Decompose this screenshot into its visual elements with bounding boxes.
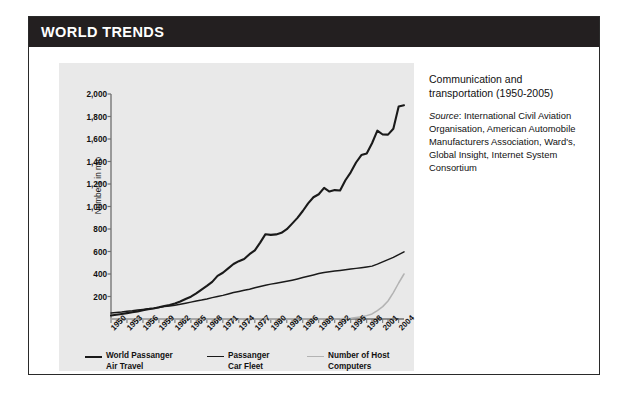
x-axis-tick-labels: 1950195319561959196219651968197119741977… xyxy=(59,63,414,371)
x-tick-label: 1968 xyxy=(205,313,224,332)
caption-source: Source: International Civil Aviation Org… xyxy=(429,109,589,174)
legend-label: World Passanger Air Travel xyxy=(106,351,173,372)
x-tick-label: 1965 xyxy=(189,313,208,332)
x-tick-label: 1959 xyxy=(157,313,176,332)
x-tick-label: 1995 xyxy=(349,313,368,332)
plot-area: Numbers in mio 2004006008001,0001,2001,4… xyxy=(59,63,414,371)
caption-block: Communication and transportation (1950-2… xyxy=(429,73,589,174)
x-tick-label: 1956 xyxy=(141,313,160,332)
x-tick-label: 1992 xyxy=(333,313,352,332)
source-label: Source xyxy=(429,110,459,121)
x-tick-label: 1974 xyxy=(237,313,256,332)
legend-swatch xyxy=(307,353,324,362)
chart-legend: World Passanger Air TravelPassanger Car … xyxy=(85,351,415,381)
legend-item[interactable]: Passanger Car Fleet xyxy=(207,351,269,372)
chart-panel: Numbers in mio 2004006008001,0001,2001,4… xyxy=(59,63,414,371)
x-tick-label: 2001 xyxy=(381,313,400,332)
x-tick-label: 1986 xyxy=(301,313,320,332)
legend-label: Number of Host Computers xyxy=(328,351,389,372)
x-tick-label: 1953 xyxy=(125,313,144,332)
x-tick-label: 1950 xyxy=(109,313,128,332)
x-tick-label: 1977 xyxy=(253,313,272,332)
legend-item[interactable]: World Passanger Air Travel xyxy=(85,351,173,372)
x-tick-label: 1989 xyxy=(317,313,336,332)
page-title: WORLD TRENDS xyxy=(41,24,164,40)
x-tick-label: 1971 xyxy=(221,313,240,332)
legend-swatch xyxy=(85,353,102,362)
x-tick-label: 1983 xyxy=(285,313,304,332)
x-tick-label: 1980 xyxy=(269,313,288,332)
legend-item[interactable]: Number of Host Computers xyxy=(307,351,389,372)
caption-title: Communication and transportation (1950-2… xyxy=(429,73,589,100)
x-tick-label: 2004 xyxy=(397,313,416,332)
x-tick-label: 1998 xyxy=(365,313,384,332)
world-trends-card: WORLD TRENDS Numbers in mio 200400600800… xyxy=(28,16,600,375)
x-tick-label: 1962 xyxy=(173,313,192,332)
legend-swatch xyxy=(207,353,224,362)
legend-label: Passanger Car Fleet xyxy=(228,351,269,372)
header-bar: WORLD TRENDS xyxy=(29,17,599,47)
